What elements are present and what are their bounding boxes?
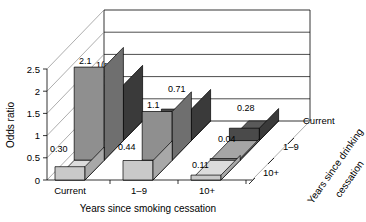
bar-label-1to9-1to9: 1.1 (147, 100, 160, 110)
z-tick-label-1to9: 1–9 (283, 141, 299, 152)
z-tick-label-current: Current (303, 115, 335, 126)
x-tick-label-1to9: 1–9 (131, 185, 147, 196)
chart-svg: 2.5 2 1.5 1 0.5 0 Odds ratio 1(ref) 0.71 (0, 0, 366, 222)
bar-label-10plus-current: 0.11 (192, 160, 209, 170)
y-axis-title: Odds ratio (5, 101, 16, 148)
bar-label-current-current: 0.30 (50, 144, 68, 154)
bar-side (172, 92, 191, 161)
bar-side (191, 89, 210, 140)
z-tick-0 (249, 178, 255, 184)
x-tick-label-current: Current (54, 185, 86, 196)
y-axis: 2.5 2 1.5 1 0.5 0 Odds ratio (5, 64, 47, 186)
z-tick-1 (268, 158, 274, 164)
y-tick-label-0: 0 (35, 175, 40, 186)
y-tick-label-0.5: 0.5 (27, 152, 40, 163)
bar-label-1to9-10plus: 0.71 (168, 84, 186, 94)
bar-label-10plus-10plus: 0.28 (237, 103, 255, 113)
bar-front (123, 161, 153, 181)
bar-front (191, 175, 221, 180)
x-axis: Current 1–9 10+ Years since smoking cess… (54, 180, 246, 214)
y-tick-label-2: 2 (35, 86, 40, 97)
bar-label-1to9-current: 0.44 (118, 142, 136, 152)
bar-10plus-10plus (229, 109, 278, 141)
odds-ratio-3d-bar-chart: 2.5 2 1.5 1 0.5 0 Odds ratio 1(ref) 0.71 (0, 0, 366, 222)
z-tick-label-10plus: 10+ (263, 167, 280, 178)
y-tick-label-1.5: 1.5 (27, 108, 40, 119)
y-tick-label-2.5: 2.5 (27, 64, 40, 75)
bar-front (55, 167, 85, 180)
bar-front (74, 67, 104, 160)
x-axis-title: Years since smoking cessation (80, 203, 216, 214)
x-tick-label-10plus: 10+ (199, 185, 216, 196)
y-tick-label-1: 1 (35, 130, 40, 141)
bar-label-10plus-1to9: 0.04 (218, 134, 236, 144)
bar-label-current-1to9: 2.1 (79, 56, 92, 66)
